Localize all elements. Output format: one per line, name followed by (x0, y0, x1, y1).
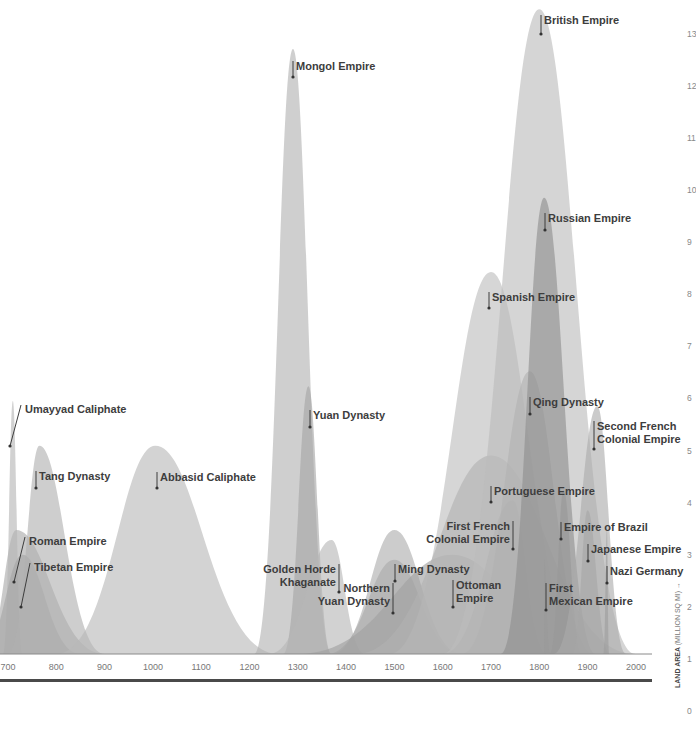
peak-marker-icon (308, 425, 311, 428)
empire-label-text: Russian Empire (548, 212, 631, 224)
empire-label-text: First (549, 582, 573, 594)
peak-marker-icon (8, 444, 11, 447)
y-tick-label: 11 (687, 133, 696, 143)
peak-marker-icon (155, 486, 158, 489)
label-umayyad-caliphate: Umayyad Caliphate (8, 403, 126, 448)
empire-label-text: Tang Dynasty (39, 470, 111, 482)
y-tick-label: 4 (687, 498, 692, 508)
peak-marker-icon (393, 579, 396, 582)
y-tick-label: 2 (687, 602, 692, 612)
label-nazi-germany: Nazi Germany (605, 565, 684, 585)
empire-label-text: Colonial Empire (426, 533, 510, 545)
peak-marker-icon (391, 611, 394, 614)
empire-label-text: Yuan Dynasty (313, 409, 386, 421)
peak-marker-icon (539, 32, 542, 35)
y-tick-label: 3 (687, 550, 692, 560)
x-tick-label: 900 (97, 662, 112, 672)
peak-marker-icon (544, 608, 547, 611)
peak-marker-icon (487, 306, 490, 309)
empire-label-text: Tibetan Empire (34, 561, 113, 573)
peak-marker-icon (489, 500, 492, 503)
empire-label-text: Mexican Empire (549, 595, 633, 607)
x-tick-label: 1900 (578, 662, 598, 672)
peak-marker-icon (511, 547, 514, 550)
empire-label-text: Ming Dynasty (398, 563, 470, 575)
empire-label-text: Qing Dynasty (533, 396, 605, 408)
peak-marker-icon (528, 412, 531, 415)
y-tick-label: 8 (687, 289, 692, 299)
label-british-empire: British Empire (539, 14, 619, 36)
y-axis: 012345678910111213LAND AREA (MILLION SQ … (674, 29, 696, 716)
y-axis-label: LAND AREA (MILLION SQ MI) → (674, 582, 682, 688)
y-tick-label: 5 (687, 446, 692, 456)
peak-marker-icon (12, 580, 15, 583)
empire-land-area-chart: 7008009001000110012001300140015001600170… (0, 0, 696, 739)
y-tick-label: 0 (687, 706, 692, 716)
empire-label-text: Umayyad Caliphate (25, 403, 126, 415)
empire-label-text: First French (446, 520, 510, 532)
x-axis: 7008009001000110012001300140015001600170… (0, 654, 652, 682)
y-tick-label: 12 (687, 81, 696, 91)
empire-label-text: Empire (456, 592, 493, 604)
empire-label-text: Mongol Empire (296, 60, 375, 72)
empire-label-text: Khaganate (280, 576, 336, 588)
label-second-french-colonial-empire: Second FrenchColonial Empire (592, 420, 680, 451)
peak-marker-icon (592, 447, 595, 450)
y-tick-label: 7 (687, 341, 692, 351)
x-tick-label: 2000 (626, 662, 646, 672)
x-tick-label: 1100 (192, 662, 211, 672)
peak-marker-icon (559, 537, 562, 540)
y-tick-label: 13 (687, 29, 696, 39)
x-tick-label: 700 (0, 662, 15, 672)
x-tick-label: 1500 (384, 662, 404, 672)
empire-label-text: Northern (344, 582, 391, 594)
x-tick-label: 1400 (336, 662, 356, 672)
label-mongol-empire: Mongol Empire (291, 60, 375, 79)
empire-label-text: Yuan Dynasty (318, 595, 391, 607)
empire-label-text: Portuguese Empire (494, 485, 595, 497)
x-tick-label: 1000 (143, 662, 163, 672)
empire-areas (0, 9, 635, 654)
x-tick-label: 1600 (433, 662, 453, 672)
empire-label-text: Second French (597, 420, 677, 432)
x-tick-label: 1700 (481, 662, 501, 672)
label-yuan-dynasty: Yuan Dynasty (308, 409, 386, 429)
y-tick-label: 10 (687, 185, 696, 195)
peak-marker-icon (337, 590, 340, 593)
empire-label-text: Roman Empire (29, 535, 107, 547)
empire-label-text: Golden Horde (263, 563, 336, 575)
peak-marker-icon (291, 75, 294, 78)
empire-label-text: Empire of Brazil (564, 521, 648, 533)
x-tick-label: 1800 (529, 662, 549, 672)
peak-marker-icon (19, 605, 22, 608)
empire-label-text: Colonial Empire (597, 433, 681, 445)
peak-marker-icon (605, 581, 608, 584)
empire-label-text: British Empire (544, 14, 619, 26)
x-tick-label: 1200 (239, 662, 259, 672)
empire-label-text: Spanish Empire (492, 291, 575, 303)
peak-marker-icon (451, 605, 454, 608)
x-tick-label: 800 (49, 662, 64, 672)
y-tick-label: 9 (687, 237, 692, 247)
y-tick-label: 1 (687, 654, 692, 664)
empire-label-text: Abbasid Caliphate (160, 471, 256, 483)
peak-marker-icon (543, 228, 546, 231)
peak-marker-icon (34, 486, 37, 489)
empire-label-text: Nazi Germany (610, 565, 684, 577)
x-tick-label: 1300 (288, 662, 308, 672)
baseline-bar (0, 679, 652, 682)
empire-labels: Roman EmpireUmayyad CaliphateTibetan Emp… (8, 14, 684, 615)
peak-marker-icon (586, 559, 589, 562)
empire-label-text: Ottoman (456, 579, 502, 591)
y-tick-label: 6 (687, 393, 692, 403)
empire-label-text: Japanese Empire (591, 543, 682, 555)
